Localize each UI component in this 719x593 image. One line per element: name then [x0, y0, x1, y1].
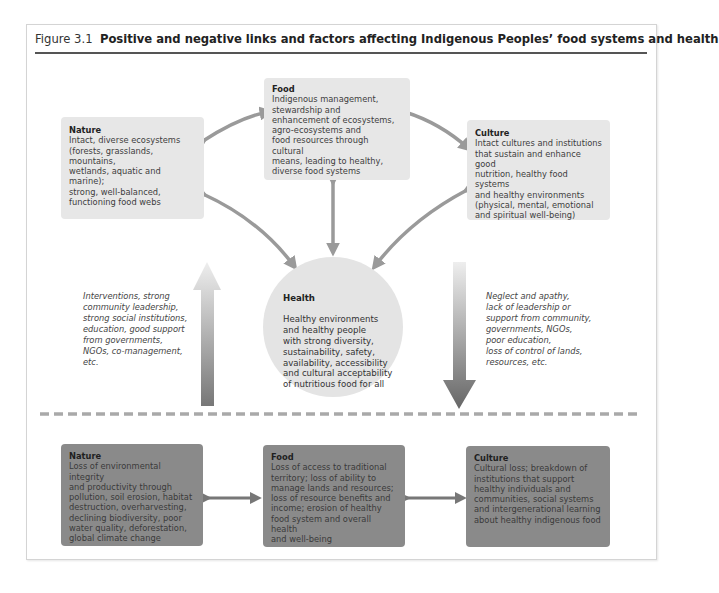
upward-arrow	[193, 262, 221, 406]
heading: Food	[271, 452, 397, 462]
heading: Health	[283, 293, 392, 304]
body: Loss of access to traditional territory;…	[271, 462, 397, 544]
box-culture-positive: Culture Intact cultures and institutions…	[467, 120, 610, 220]
box-food-negative: Food Loss of access to traditional terri…	[263, 445, 405, 547]
box-nature-negative: Nature Loss of environmental integrity a…	[61, 444, 203, 546]
heading: Nature	[69, 451, 195, 461]
downward-arrow	[443, 262, 476, 409]
arrow-nature-food	[203, 112, 268, 141]
box-culture-negative: Culture Cultural loss; breakdown of inst…	[466, 446, 610, 547]
arrow-culture-health	[375, 190, 467, 266]
body: Healthy environments and healthy people …	[283, 314, 392, 389]
body: Intact, diverse ecosystems (forests, gra…	[69, 135, 196, 207]
body: Cultural loss; breakdown of institutions…	[474, 463, 602, 525]
negative-factors-text: Neglect and apathy, lack of leadership o…	[486, 291, 591, 368]
body: Indigenous management, stewardship and e…	[272, 94, 402, 176]
heading: Culture	[475, 128, 602, 138]
health-text: Health Healthy environments and healthy …	[283, 282, 392, 390]
heading: Food	[272, 84, 402, 94]
box-nature-positive: Nature Intact, diverse ecosystems (fores…	[61, 117, 204, 219]
body: Loss of environmental integrity and prod…	[69, 461, 195, 543]
positive-factors-text: Interventions, strong community leadersh…	[83, 291, 187, 368]
arrow-food-culture	[405, 112, 468, 148]
heading: Culture	[474, 453, 602, 463]
heading: Nature	[69, 125, 196, 135]
box-food-positive: Food Indigenous management, stewardship …	[264, 78, 410, 180]
body: Intact cultures and institutions that su…	[475, 138, 602, 220]
arrow-nature-health	[203, 194, 294, 266]
